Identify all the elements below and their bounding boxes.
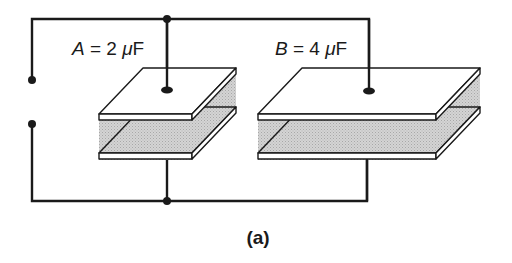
terminal-dot-lower [28,120,36,128]
bottom-plate-a-edge-front [99,153,192,159]
terminal-dot-upper [28,76,36,84]
junction-dot-top [163,15,171,23]
parallel-capacitor-circuit: A = 2 μF B = 4 μF (a) [0,0,512,263]
top-plate-b-edge-front [258,114,436,120]
capacitor-a-label: A = 2 μF [71,38,144,59]
top-plate-a-edge-front [99,114,192,120]
bottom-plate-b-edge-front [258,153,436,159]
figure-caption: (a) [246,227,269,248]
junction-dot-bottom [163,197,171,205]
capacitor-b-label: B = 4 μF [275,38,347,59]
